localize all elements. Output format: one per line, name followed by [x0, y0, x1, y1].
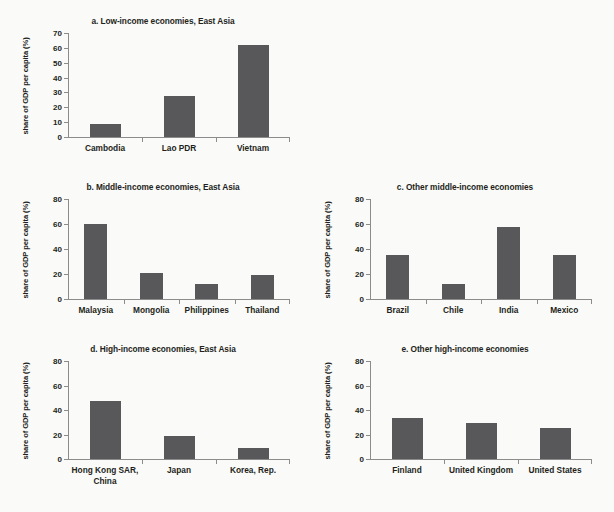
y-tick-b-80	[64, 199, 68, 200]
y-axis-title-c: share of GDP per capita (%)	[323, 201, 332, 298]
y-tick-b-40	[64, 249, 68, 250]
y-tick-d-20	[64, 435, 68, 436]
x-tick-d-end	[289, 460, 290, 464]
figure-panel-grid: a. Low-income economies, East Asiashare …	[0, 0, 614, 512]
x-axis-label-c-3: Mexico	[550, 305, 578, 316]
y-axis-title-a: share of GDP per capita (%)	[21, 37, 30, 134]
y-tick-label-b-60: 60	[53, 220, 62, 229]
bar-e-2	[540, 428, 571, 459]
y-axis-title-b: share of GDP per capita (%)	[21, 201, 30, 298]
y-tick-label-b-20: 20	[53, 270, 62, 279]
panel-title-c: c. Other middle-income economies	[320, 182, 610, 192]
x-axis-label-a-2: Vietnam	[237, 143, 269, 154]
y-tick-label-e-40: 40	[355, 406, 364, 415]
y-tick-label-d-0: 0	[58, 455, 62, 464]
x-tick-d-1	[142, 460, 143, 464]
y-tick-label-d-20: 20	[53, 430, 62, 439]
y-tick-label-a-0: 0	[58, 133, 62, 142]
y-tick-a-0	[64, 137, 68, 138]
y-axis-title-wrap-d: share of GDP per capita (%)	[18, 361, 32, 460]
x-tick-b-3	[235, 300, 236, 304]
chart-panel-e: e. Other high-income economiesshare of G…	[320, 344, 610, 504]
bar-e-0	[392, 418, 423, 459]
y-axis-title-wrap-c: share of GDP per capita (%)	[320, 199, 334, 300]
panel-title-a: a. Low-income economies, East Asia	[18, 16, 308, 26]
y-tick-label-e-80: 80	[355, 357, 364, 366]
y-tick-label-a-70: 70	[53, 29, 62, 38]
y-tick-label-b-80: 80	[53, 195, 62, 204]
y-tick-label-c-40: 40	[355, 245, 364, 254]
chart-panel-c: c. Other middle-income economiesshare of…	[320, 182, 610, 332]
x-axis-label-c-2: India	[499, 305, 518, 316]
y-tick-d-0	[64, 459, 68, 460]
panel-title-b: b. Middle-income economies, East Asia	[18, 182, 308, 192]
x-tick-a-1	[142, 138, 143, 142]
y-axis-line-b	[68, 199, 69, 300]
y-tick-e-80	[366, 361, 370, 362]
y-axis-title-d: share of GDP per capita (%)	[21, 362, 30, 459]
x-axis-label-b-0: Malaysia	[78, 305, 113, 316]
x-axis-label-a-0: Cambodia	[85, 143, 125, 154]
x-axis-label-b-1: Mongolia	[133, 305, 169, 316]
y-tick-c-0	[366, 299, 370, 300]
y-tick-c-80	[366, 199, 370, 200]
x-tick-e-end	[591, 460, 592, 464]
plot-area-b: 020406080	[68, 199, 290, 300]
chart-panel-a: a. Low-income economies, East Asiashare …	[18, 16, 308, 176]
y-tick-label-e-0: 0	[360, 455, 364, 464]
x-axis-label-d-2: Korea, Rep.	[230, 465, 276, 476]
x-axis-line-d	[68, 459, 290, 460]
y-tick-label-c-60: 60	[355, 220, 364, 229]
chart-panel-d: d. High-income economies, East Asiashare…	[18, 344, 308, 504]
x-tick-d-2	[216, 460, 217, 464]
x-tick-e-2	[518, 460, 519, 464]
y-tick-a-20	[64, 107, 68, 108]
y-tick-a-50	[64, 63, 68, 64]
cropped-text-sliver	[90, 0, 524, 3]
y-tick-label-e-60: 60	[355, 381, 364, 390]
y-axis-line-d	[68, 361, 69, 460]
y-tick-label-c-80: 80	[355, 195, 364, 204]
y-axis-title-wrap-a: share of GDP per capita (%)	[18, 33, 32, 138]
bar-d-2	[238, 448, 269, 459]
y-axis-line-c	[370, 199, 371, 300]
y-axis-title-wrap-e: share of GDP per capita (%)	[320, 361, 334, 460]
x-tick-c-end	[591, 300, 592, 304]
y-tick-b-0	[64, 299, 68, 300]
y-tick-label-a-20: 20	[53, 103, 62, 112]
x-axis-label-a-1: Lao PDR	[162, 143, 197, 154]
x-axis-line-a	[68, 137, 290, 138]
plot-area-e: 020406080	[370, 361, 592, 460]
bar-c-0	[386, 255, 409, 299]
y-tick-label-d-40: 40	[53, 406, 62, 415]
x-tick-b-2	[179, 300, 180, 304]
y-axis-line-e	[370, 361, 371, 460]
y-tick-label-b-0: 0	[58, 295, 62, 304]
panel-title-e: e. Other high-income economies	[320, 344, 610, 354]
chart-panel-b: b. Middle-income economies, East Asiasha…	[18, 182, 308, 332]
bar-c-2	[497, 227, 520, 300]
y-tick-label-b-40: 40	[53, 245, 62, 254]
x-axis-label-d-0: Hong Kong SAR,China	[72, 465, 139, 486]
x-tick-c-3	[537, 300, 538, 304]
y-tick-label-d-60: 60	[53, 381, 62, 390]
x-axis-label-d-1: Japan	[167, 465, 191, 476]
y-axis-title-e: share of GDP per capita (%)	[323, 362, 332, 459]
plot-area-c: 020406080	[370, 199, 592, 300]
y-tick-a-30	[64, 92, 68, 93]
y-tick-b-20	[64, 274, 68, 275]
y-axis-title-wrap-b: share of GDP per capita (%)	[18, 199, 32, 300]
x-axis-label-e-2: United States	[528, 465, 581, 476]
y-tick-a-10	[64, 122, 68, 123]
y-tick-e-40	[366, 410, 370, 411]
y-tick-label-c-0: 0	[360, 295, 364, 304]
y-tick-a-60	[64, 48, 68, 49]
y-tick-d-60	[64, 386, 68, 387]
x-tick-c-2	[481, 300, 482, 304]
y-tick-label-a-60: 60	[53, 43, 62, 52]
y-tick-label-a-30: 30	[53, 88, 62, 97]
x-axis-label-b-2: Philippines	[185, 305, 229, 316]
y-tick-a-40	[64, 78, 68, 79]
y-tick-label-a-50: 50	[53, 58, 62, 67]
y-tick-label-e-20: 20	[355, 430, 364, 439]
